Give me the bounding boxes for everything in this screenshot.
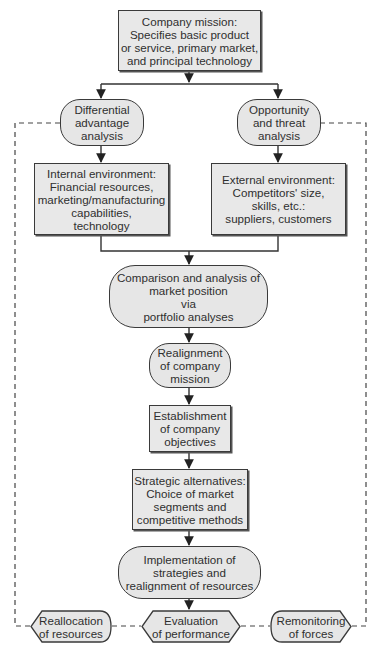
node-text: capabilities, [71,206,132,219]
node-text: advantage [75,116,129,129]
node-label: Reallocation of resources [39,614,103,640]
node-text: of forces [277,627,346,640]
edge-merge [101,235,278,251]
node-text: mission [170,372,209,385]
differential-advantage-node: Differential advantage analysis [60,99,144,146]
node-text: via [181,297,196,310]
node-label: Remonitoring of forces [277,614,346,640]
node-text: Competitors' size, [233,186,325,199]
comparison-analysis-node: Comparison and analysis of market positi… [109,265,268,328]
remonitoring-forces-node: Remonitoring of forces [270,610,352,643]
external-environment-box: External environment: Competitors' size,… [211,163,346,235]
company-objectives-box: Establishment of company objectives [149,405,231,452]
node-text: and principal technology [127,54,252,67]
node-label: Evaluation of performance [152,614,230,640]
node-text: Specifies basic product [130,28,249,41]
opportunity-threat-node: Opportunity and threat analysis [237,99,321,146]
node-text: Remonitoring [277,614,346,627]
strategic-alternatives-box: Strategic alternatives: Choice of market… [132,469,248,530]
node-text: Implementation of [143,553,235,566]
node-text: Choice of market [146,487,234,500]
node-text: portfolio analyses [143,310,233,323]
node-text: of company [160,422,220,435]
node-text: realignment of resources [126,579,254,592]
node-text: Evaluation [152,614,230,627]
node-text: analysis [81,129,123,142]
node-text: competitive methods [137,513,243,526]
node-text: of company [160,359,220,372]
node-text: of performance [152,627,230,640]
node-text: Comparison and analysis of [117,271,260,284]
evaluation-performance-node: Evaluation of performance [141,610,241,643]
node-text: Strategic alternatives: [134,474,245,487]
node-text: marketing/manufacturing [38,193,166,206]
node-text: market position [149,284,228,297]
node-text: and threat [253,116,305,129]
node-text: or service, primary market, [121,41,258,54]
node-text: skills, etc.: [252,199,305,212]
node-text: analysis [258,129,300,142]
node-text: Reallocation [39,614,103,627]
implementation-node: Implementation of strategies and realign… [118,546,261,599]
node-text: Company mission: [142,15,237,28]
node-text: strategies and [153,566,226,579]
internal-environment-box: Internal environment: Financial resource… [34,163,169,235]
node-text: Opportunity [249,103,309,116]
node-text: Establishment [154,409,227,422]
company-mission-box: Company mission: Specifies basic product… [118,10,261,71]
node-text: Internal environment: [47,167,156,180]
node-text: technology [73,219,129,232]
node-text: Differential [74,103,129,116]
reallocation-resources-node: Reallocation of resources [30,610,112,643]
node-text: of resources [39,627,103,640]
node-text: objectives [164,435,216,448]
node-text: segments and [154,500,227,513]
node-text: Financial resources, [50,180,154,193]
node-text: suppliers, customers [225,212,331,225]
node-text: Realignment [157,346,222,359]
realignment-mission-node: Realignment of company mission [149,343,231,388]
node-text: External environment: [222,173,335,186]
